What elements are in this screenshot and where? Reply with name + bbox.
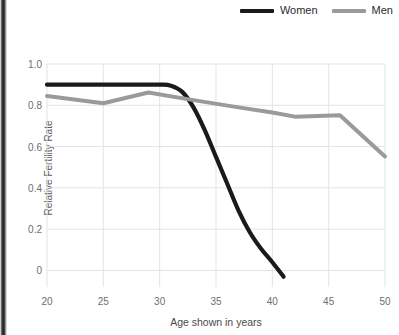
x-tick-label: 50	[379, 296, 390, 307]
legend-swatch-women	[240, 9, 274, 13]
y-tick-label: 0.2	[28, 224, 42, 235]
x-axis-label: Age shown in years	[47, 316, 385, 328]
y-tick-label: 0.4	[28, 182, 42, 193]
legend-item-women: Women	[240, 5, 318, 16]
x-tick-label: 45	[323, 296, 334, 307]
x-tick-label: 30	[154, 296, 165, 307]
chart-legend: Women Men	[240, 5, 393, 16]
fertility-rate-line-chart: Women Men Relative Fertility Rate 00.20.…	[0, 0, 399, 335]
y-tick-label: 0.8	[28, 100, 42, 111]
legend-swatch-men	[332, 9, 366, 13]
x-axis-tick-labels: 20253035404550	[0, 296, 399, 312]
y-tick-label: 0	[36, 265, 42, 276]
y-tick-label: 1.0	[28, 59, 42, 70]
y-axis-tick-labels: 00.20.40.60.81.0	[0, 0, 42, 335]
legend-label-women: Women	[280, 5, 318, 16]
plot-area	[47, 64, 385, 287]
x-tick-label: 20	[41, 296, 52, 307]
series-line-women	[47, 85, 284, 277]
plot-svg	[47, 64, 385, 287]
legend-label-men: Men	[372, 5, 393, 16]
x-tick-label: 35	[210, 296, 221, 307]
legend-item-men: Men	[332, 5, 393, 16]
gridlines	[47, 64, 385, 287]
x-tick-label: 25	[98, 296, 109, 307]
x-tick-label: 40	[267, 296, 278, 307]
y-tick-label: 0.6	[28, 141, 42, 152]
